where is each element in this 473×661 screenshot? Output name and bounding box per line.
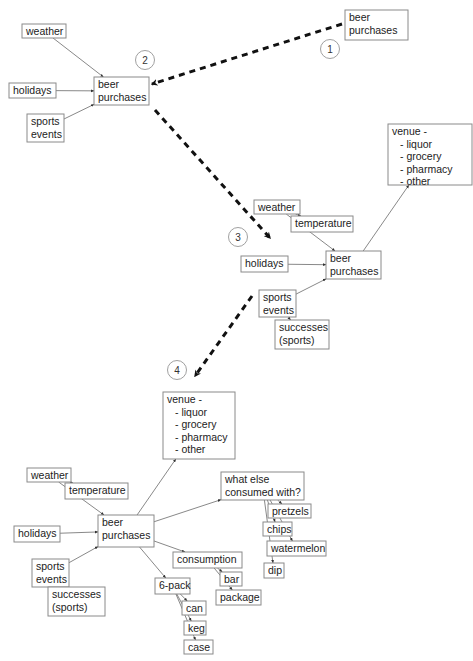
node-s2-weather: weather: [22, 24, 66, 38]
edge-s2-weather-to-s2-beer: [53, 38, 103, 77]
node-s2-sports: sportsevents: [27, 114, 64, 142]
node-s4-temperature: temperature: [65, 483, 128, 499]
node-label: what else: [224, 473, 270, 485]
node-s3-beer: beerpurchases: [326, 251, 381, 279]
node-s3-holidays: holidays: [241, 256, 288, 272]
node-label: (sports): [279, 334, 315, 346]
node-label: purchases: [98, 91, 146, 103]
step-number-label: 2: [142, 55, 148, 66]
node-s4-beer: beerpurchases: [98, 515, 154, 547]
node-s1-beer: beerpurchases: [345, 10, 408, 40]
node-s4-sports: sportsevents: [32, 559, 69, 587]
node-s3-sports: sportsevents: [259, 290, 296, 317]
edge-s4-beer-to-s4-consumption: [154, 541, 185, 552]
node-label: purchases: [349, 24, 397, 36]
node-label: events: [263, 304, 294, 316]
node-label: - grocery: [175, 418, 217, 430]
edge-s3-beer-to-s3-venue: [363, 185, 409, 251]
node-label: - other: [400, 175, 431, 187]
node-s4-chips: chips: [263, 522, 292, 536]
node-s4-venue: venue -- liquor- grocery- pharmacy- othe…: [163, 392, 235, 459]
node-label: venue -: [167, 393, 203, 405]
node-s4-holidays: holidays: [14, 526, 60, 542]
node-s4-whatelse: what elseconsumed with?: [221, 472, 304, 500]
edge-s4-beer-to-s4-whatelse: [154, 500, 221, 522]
node-label: weather: [30, 469, 69, 481]
node-label: beer: [330, 252, 352, 264]
node-s4-watermelon: watermelon: [267, 541, 326, 556]
node-label: 6-pack: [159, 579, 191, 591]
node-label: holidays: [13, 84, 52, 96]
node-s3-weather: weather: [254, 200, 300, 214]
edge-s2-sports-to-s2-beer: [64, 104, 94, 119]
edge-s4-beer-to-s4-6pack: [140, 547, 166, 578]
node-s2-beer: beerpurchases: [94, 77, 149, 105]
node-label: temperature: [295, 217, 352, 229]
node-label: beer: [102, 516, 124, 528]
node-s4-pretzels: pretzels: [268, 504, 311, 518]
node-label: (sports): [52, 601, 88, 613]
node-label: bar: [224, 573, 240, 585]
node-s3-temperature: temperature: [291, 216, 353, 232]
node-s3-successes: successes(sports): [275, 320, 329, 349]
node-label: successes: [279, 321, 328, 333]
node-label: case: [188, 641, 210, 653]
node-label: successes: [52, 588, 101, 600]
node-label: beer: [98, 78, 120, 90]
node-label: - liquor: [175, 406, 208, 418]
node-s4-package: package: [216, 590, 261, 605]
node-label: can: [186, 602, 203, 614]
node-s4-keg: keg: [184, 621, 206, 635]
node-label: venue -: [392, 125, 428, 137]
node-label: weather: [25, 25, 64, 37]
node-s4-successes: successes(sports): [48, 587, 105, 616]
node-s3-venue: venue -- liquor- grocery- pharmacy- othe…: [388, 124, 472, 187]
node-label: weather: [257, 201, 296, 213]
node-s4-6pack: 6-pack: [155, 578, 191, 594]
node-label: watermelon: [270, 542, 325, 554]
node-label: temperature: [69, 484, 126, 496]
node-s2-holidays: holidays: [9, 83, 56, 98]
node-label: purchases: [330, 265, 378, 277]
edge-s4-sports-to-s4-beer: [69, 547, 98, 563]
node-label: keg: [188, 622, 205, 634]
node-label: - pharmacy: [175, 431, 228, 443]
step-number-label: 1: [327, 44, 333, 55]
node-s4-can: can: [182, 601, 206, 615]
node-label: consumption: [177, 553, 237, 565]
edge-s3-sports-to-s3-beer: [296, 279, 326, 294]
edge-s4-beer-to-s4-venue: [137, 459, 176, 515]
node-label: chips: [267, 523, 292, 535]
step-number-label: 4: [174, 365, 180, 376]
node-label: beer: [349, 11, 371, 23]
transition-arrow-1-to-2: [152, 24, 342, 84]
transition-arrow-3-to-4: [195, 296, 252, 376]
edge-s4-6pack-to-s4-can: [180, 594, 187, 601]
node-label: events: [36, 573, 67, 585]
node-label: consumed with?: [225, 486, 301, 498]
transition-arrow-2-to-3: [155, 110, 270, 238]
node-label: purchases: [102, 529, 150, 541]
node-label: - pharmacy: [400, 163, 453, 175]
node-label: sports: [36, 560, 65, 572]
edge-s4-whatelse-to-s4-pretzels: [278, 500, 282, 504]
node-label: dip: [268, 564, 282, 576]
concept-map-diagram: beerpurchasesweatherholidayssportsevents…: [0, 0, 473, 661]
step-number-label: 3: [235, 232, 241, 243]
edge-s4-consumption-to-s4-bar: [217, 568, 222, 572]
node-label: sports: [263, 291, 292, 303]
node-s4-case: case: [184, 640, 213, 654]
node-label: sports: [31, 115, 60, 127]
node-label: - grocery: [400, 150, 442, 162]
node-label: pretzels: [272, 505, 309, 517]
node-label: holidays: [18, 527, 57, 539]
node-label: package: [220, 591, 260, 603]
node-label: events: [31, 128, 62, 140]
edge-s4-holidays-to-s4-beer: [60, 532, 98, 533]
node-label: holidays: [245, 257, 284, 269]
node-label: - other: [175, 443, 206, 455]
node-s4-bar: bar: [220, 572, 242, 586]
node-s4-consumption: consumption: [173, 552, 242, 568]
node-s4-weather: weather: [27, 468, 71, 482]
node-label: - liquor: [400, 138, 433, 150]
